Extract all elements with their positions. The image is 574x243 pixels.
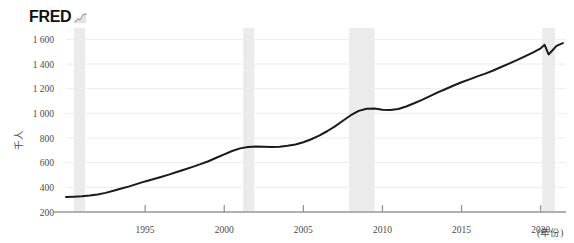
chart-plot-area: 2004006008001 0001 2001 4001 600 1995200… bbox=[0, 0, 574, 243]
y-tick-label: 400 bbox=[40, 183, 55, 193]
x-tick-label: 2000 bbox=[215, 225, 234, 235]
x-tick-label: 1995 bbox=[136, 225, 155, 235]
y-tick-label: 1 600 bbox=[33, 35, 55, 45]
recession-band bbox=[74, 28, 85, 212]
grid-lines-group bbox=[66, 39, 566, 212]
y-axis-title: 千人 bbox=[14, 130, 24, 150]
x-tick-label: 2015 bbox=[452, 225, 471, 235]
series-line bbox=[66, 43, 563, 197]
y-tick-label: 600 bbox=[40, 158, 55, 168]
recession-band bbox=[349, 28, 374, 212]
y-tick-label: 1 000 bbox=[33, 109, 55, 119]
x-axis-tick-labels: 199520002005201020152020 bbox=[136, 225, 551, 235]
y-tick-label: 800 bbox=[40, 134, 55, 144]
y-axis-tick-labels: 2004006008001 0001 2001 4001 600 bbox=[33, 35, 55, 218]
recession-band bbox=[243, 28, 254, 212]
x-tick-marks-group bbox=[145, 205, 541, 212]
recession-band bbox=[542, 28, 555, 212]
y-tick-label: 200 bbox=[40, 208, 55, 218]
y-tick-label: 1 200 bbox=[33, 84, 55, 94]
y-tick-label: 1 400 bbox=[33, 60, 55, 70]
x-tick-label: 2010 bbox=[373, 225, 392, 235]
data-series-group bbox=[66, 43, 563, 197]
x-tick-label: 2005 bbox=[294, 225, 313, 235]
recession-bands-group bbox=[74, 28, 555, 212]
fred-chart: FRED 2004006008001 0001 2001 4001 600 19… bbox=[0, 0, 574, 243]
x-axis-title: (年份) bbox=[537, 227, 563, 239]
